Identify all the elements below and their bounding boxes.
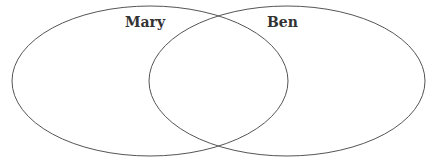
venn-diagram bbox=[0, 0, 433, 162]
mary-set-label: Mary bbox=[125, 15, 165, 29]
ben-set-label: Ben bbox=[267, 15, 298, 29]
